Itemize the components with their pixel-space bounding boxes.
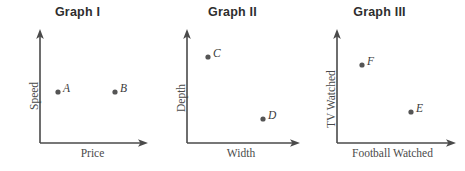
graph-1-point-label-b: B xyxy=(120,82,127,94)
graph-3-data-point-e xyxy=(408,109,413,114)
graph-3-point-label-f: F xyxy=(367,55,374,67)
graph-3-point-label-e: E xyxy=(416,102,423,114)
graph-2-x-axis-label: Width xyxy=(187,147,295,159)
graph-2-y-axis-label: Depth xyxy=(175,84,187,112)
graph-1-data-point-b xyxy=(112,89,117,94)
graph-2-point-label-d: D xyxy=(268,109,276,121)
graph-3-y-axis-label: TV Watched xyxy=(325,70,337,128)
graph-panel-2: Graph II C D Depth Width xyxy=(155,0,310,171)
three-scatter-graphs-figure: Graph I A B Speed Price Graph II C xyxy=(0,0,465,171)
graph-panel-1: Graph I A B Speed Price xyxy=(0,0,155,171)
graph-2-data-point-c xyxy=(205,54,210,59)
graph-1-x-axis-label: Price xyxy=(40,147,145,159)
graph-panel-3: Graph III F E TV Watched Football Watche… xyxy=(310,0,465,171)
graph-1-data-point-a xyxy=(55,89,60,94)
graph-1-y-axis-label: Speed xyxy=(28,82,40,110)
graph-3-x-axis-label: Football Watched xyxy=(320,147,465,159)
graph-2-point-label-c: C xyxy=(213,47,221,59)
graph-1-point-label-a: A xyxy=(63,82,70,94)
graph-2-data-point-d xyxy=(260,116,265,121)
graph-1-axes xyxy=(0,0,155,171)
graph-3-data-point-f xyxy=(359,62,364,67)
